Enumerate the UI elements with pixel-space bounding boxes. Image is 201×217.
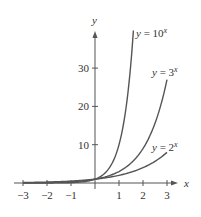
x-axis-label: x xyxy=(183,177,189,189)
x-tick-label: 3 xyxy=(164,189,170,201)
curve-label-base-3: y = 3x xyxy=(151,65,178,78)
exponential-chart: x y −3−2−1123 102030 y = 10xy = 3xy = 2x xyxy=(0,0,201,217)
x-tick-label: 1 xyxy=(116,189,122,201)
x-tick-label: −3 xyxy=(17,189,29,201)
x-tick-label: −1 xyxy=(65,189,77,201)
y-tick-label: 20 xyxy=(78,100,90,112)
y-axis-label: y xyxy=(91,14,97,26)
curve-label-base-10: y = 10x xyxy=(135,26,168,39)
curve-label-base-2: y = 2x xyxy=(151,140,178,153)
axes: x y xyxy=(14,14,189,189)
curve-labels: y = 10xy = 3xy = 2x xyxy=(135,26,178,153)
x-tick-label: 2 xyxy=(140,189,146,201)
y-tick-label: 10 xyxy=(78,139,90,151)
y-axis-arrow-icon xyxy=(93,31,98,38)
x-axis-arrow-icon xyxy=(171,181,178,186)
y-tick-label: 30 xyxy=(78,62,90,74)
x-tick-label: −2 xyxy=(41,189,53,201)
